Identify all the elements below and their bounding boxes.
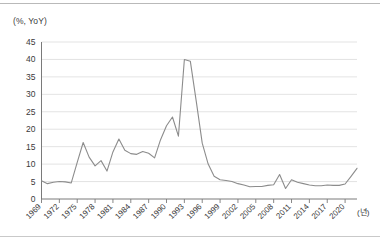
gridlines-group xyxy=(42,42,358,182)
x-axis-tick-label: 1984 xyxy=(113,202,132,221)
x-axis-tick-label: 1999 xyxy=(203,202,222,221)
y-axis-tick-label: 10 xyxy=(26,159,36,169)
y-axis-tick-labels: 051015202530354045 xyxy=(26,37,36,204)
y-axis-tick-label: 20 xyxy=(26,124,36,134)
y-axis-tick-label: 45 xyxy=(26,37,36,47)
y-axis-tick-label: 30 xyxy=(26,89,36,99)
x-axis-tick-label: 1990 xyxy=(149,202,168,221)
x-axis-tick-label: 1981 xyxy=(95,202,114,221)
plot-area: 051015202530354045 196919721975197819811… xyxy=(0,0,380,242)
chart-figure: (%, YoY) 051015202530354045 196919721975… xyxy=(0,0,380,242)
y-axis-tick-label: 35 xyxy=(26,72,36,82)
y-axis-tick-label: 15 xyxy=(26,142,36,152)
x-axis-tick-label: 1969 xyxy=(24,202,43,221)
x-axis-tick-marks xyxy=(42,199,346,203)
x-axis-tick-label: 1993 xyxy=(167,202,186,221)
x-axis-tick-label: 2002 xyxy=(220,202,239,221)
line-chart-svg: 051015202530354045 196919721975197819811… xyxy=(0,0,380,242)
data-series-group xyxy=(42,59,358,188)
y-axis-tick-label: 5 xyxy=(31,177,36,187)
x-axis-tick-label: 1996 xyxy=(185,202,204,221)
x-axis-unit-label: (년) xyxy=(357,206,369,217)
x-axis-tick-label: 1975 xyxy=(60,202,79,221)
x-axis-tick-label: 1972 xyxy=(42,202,61,221)
x-axis-tick-label: 1978 xyxy=(78,202,97,221)
x-axis-tick-label: 1987 xyxy=(131,202,150,221)
x-axis-tick-label: 2005 xyxy=(238,202,257,221)
x-axis-tick-label: 2020 xyxy=(328,202,347,221)
x-axis-tick-label: 2017 xyxy=(310,202,329,221)
x-axis-tick-label: 2014 xyxy=(292,202,311,221)
x-axis-tick-label: 2008 xyxy=(256,202,275,221)
y-axis-tick-label: 40 xyxy=(26,54,36,64)
x-axis-tick-label: 2011 xyxy=(274,202,293,221)
x-axis-tick-labels: 1969197219751978198119841987199019931996… xyxy=(24,202,347,221)
y-axis-tick-label: 25 xyxy=(26,107,36,117)
series-line xyxy=(42,59,358,188)
